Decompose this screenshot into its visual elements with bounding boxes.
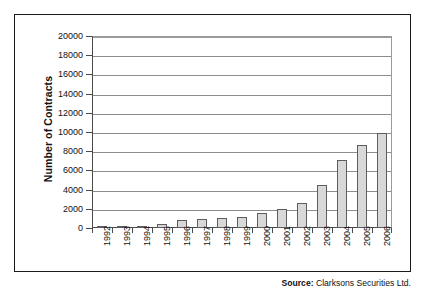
bar-slot xyxy=(212,36,232,228)
bar-slot xyxy=(272,36,292,228)
x-axis-label-slot: 1998 xyxy=(212,234,232,278)
x-axis-label-slot: 2006 xyxy=(372,234,392,278)
x-axis-tick-mark xyxy=(352,228,353,233)
x-axis-tick-mark xyxy=(112,228,113,233)
x-axis-tick-label: 1999 xyxy=(242,226,252,246)
bar-2005 xyxy=(357,145,368,228)
x-axis-label-slot: 1995 xyxy=(152,234,172,278)
x-axis-label-slot: 2001 xyxy=(272,234,292,278)
x-axis-tick-label: 1994 xyxy=(142,226,152,246)
x-axis-label-slot: 2000 xyxy=(252,234,272,278)
y-axis-tick-label: 2000 xyxy=(63,204,83,214)
x-axis-label-slot: 1994 xyxy=(132,234,152,278)
x-axis-label-slot: 1997 xyxy=(192,234,212,278)
source-text: Clarksons Securities Ltd. xyxy=(316,278,411,288)
y-axis-tick-label: 12000 xyxy=(58,108,83,118)
x-axis-tick-label: 2001 xyxy=(282,226,292,246)
x-axis-tick-label: 2003 xyxy=(322,226,332,246)
x-axis-label-slot: 2002 xyxy=(292,234,312,278)
x-axis-tick-mark xyxy=(272,228,273,233)
x-axis-tick-labels: 1992199319941995199619971998199920002001… xyxy=(92,234,392,278)
x-axis-label-slot: 1993 xyxy=(112,234,132,278)
x-axis-tick-label: 1996 xyxy=(182,226,192,246)
x-axis-tick-mark xyxy=(332,228,333,233)
x-axis-tick-label: 1995 xyxy=(162,226,172,246)
x-axis-tick-mark xyxy=(132,228,133,233)
x-axis-tick-label: 1998 xyxy=(222,226,232,246)
x-axis-tick-mark xyxy=(172,228,173,233)
bar-slot xyxy=(352,36,372,228)
x-axis-tick-label: 1997 xyxy=(202,226,212,246)
bar-2003 xyxy=(317,185,328,228)
x-axis-label-slot: 1996 xyxy=(172,234,192,278)
bar-slot xyxy=(92,36,112,228)
x-axis-label-slot: 1999 xyxy=(232,234,252,278)
y-axis-tick-label: 0 xyxy=(78,223,83,233)
x-axis-label-slot: 2005 xyxy=(352,234,372,278)
bar-2006 xyxy=(377,133,388,228)
y-axis-tick-label: 4000 xyxy=(63,185,83,195)
y-axis-tick-label: 20000 xyxy=(58,31,83,41)
x-axis-tick-mark xyxy=(192,228,193,233)
source-note: Source: Clarksons Securities Ltd. xyxy=(282,278,411,288)
x-axis-tick-mark xyxy=(312,228,313,233)
x-axis-tick-mark xyxy=(232,228,233,233)
y-axis-tick-label: 8000 xyxy=(63,146,83,156)
bar-series xyxy=(92,36,392,228)
y-axis-tick-label: 6000 xyxy=(63,165,83,175)
y-axis-tick-label: 16000 xyxy=(58,69,83,79)
bar-slot xyxy=(232,36,252,228)
y-axis-tick-label: 18000 xyxy=(58,50,83,60)
bar-slot xyxy=(192,36,212,228)
bar-slot xyxy=(372,36,392,228)
x-axis-tick-label: 2006 xyxy=(382,226,392,246)
bar-slot xyxy=(332,36,352,228)
x-axis-tick-mark xyxy=(152,228,153,233)
x-axis-label-slot: 1992 xyxy=(92,234,112,278)
bar-slot xyxy=(312,36,332,228)
x-axis-tick-label: 2000 xyxy=(262,226,272,246)
bar-slot xyxy=(112,36,132,228)
bar-slot xyxy=(252,36,272,228)
x-axis-tick-mark xyxy=(372,228,373,233)
x-axis-tick-mark xyxy=(252,228,253,233)
x-axis-label-slot: 2003 xyxy=(312,234,332,278)
x-axis-tick-label: 2004 xyxy=(342,226,352,246)
x-axis-label-slot: 2004 xyxy=(332,234,352,278)
source-label: Source: xyxy=(282,278,314,288)
bar-slot xyxy=(292,36,312,228)
y-axis-tick-labels: 2000018000160001400012000100008000600040… xyxy=(15,36,92,228)
bar-2002 xyxy=(297,203,308,228)
x-axis-tick-label: 2002 xyxy=(302,226,312,246)
x-axis-tick-mark xyxy=(212,228,213,233)
bar-2004 xyxy=(337,160,348,228)
x-axis-tick-mark xyxy=(92,228,93,233)
y-axis-tick-label: 14000 xyxy=(58,89,83,99)
x-axis-tick-label: 1992 xyxy=(102,226,112,246)
x-axis-tick-label: 1993 xyxy=(122,226,132,246)
x-axis-tick-label: 2005 xyxy=(362,226,372,246)
chart-figure-frame: Number of Contracts 20000180001600014000… xyxy=(14,14,411,272)
bar-slot xyxy=(132,36,152,228)
y-axis-tick-label: 10000 xyxy=(58,127,83,137)
bar-slot xyxy=(152,36,172,228)
x-axis-tick-mark xyxy=(292,228,293,233)
bar-slot xyxy=(172,36,192,228)
